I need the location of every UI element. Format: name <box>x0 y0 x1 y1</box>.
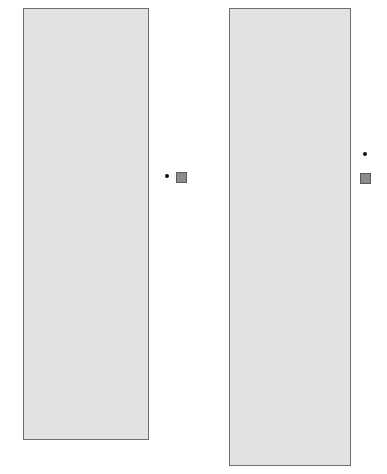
legend-dot-icon <box>163 172 172 181</box>
chart-high-skilled-ict <box>0 0 197 474</box>
bottom-chart-plot-area <box>23 8 149 440</box>
top-chart-plot-area <box>229 8 351 466</box>
chart-computer-workers <box>201 0 387 474</box>
legend-dot-icon <box>361 150 370 159</box>
bottom-chart-legend <box>159 172 187 265</box>
legend-box-icon <box>176 172 187 183</box>
figure-page <box>0 0 387 474</box>
bottom-legend-entry-ict <box>176 172 187 265</box>
bottom-chart-heading <box>184 6 189 166</box>
bottom-legend-entry-highskilled <box>163 172 172 265</box>
top-chart-heading <box>368 6 373 156</box>
legend-box-icon <box>360 173 371 184</box>
top-chart-legend <box>360 150 371 188</box>
